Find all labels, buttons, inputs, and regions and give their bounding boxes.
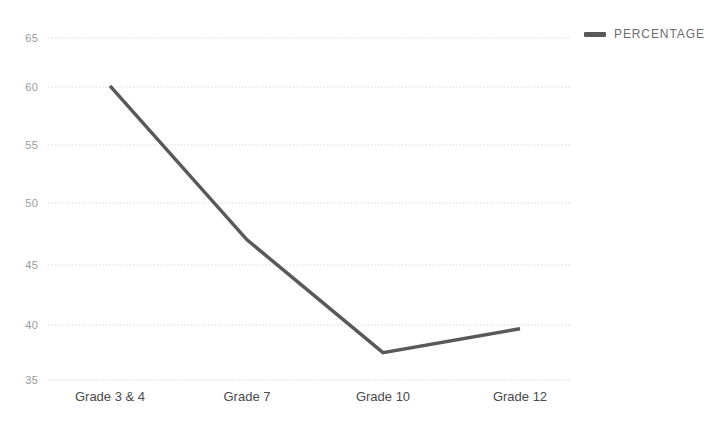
y-tick-label-40: 40 (8, 319, 38, 331)
legend-swatch-percentage (584, 32, 606, 37)
x-tick-label-grade-10: Grade 10 (313, 389, 453, 405)
series-line-percentage (110, 86, 520, 353)
line-chart: 65 60 55 50 45 40 35 Grade 3 & 4 Grade 7… (0, 0, 727, 425)
x-tick-label-grade-3-4: Grade 3 & 4 (40, 389, 180, 405)
chart-plot-area (0, 0, 727, 425)
y-tick-label-65: 65 (8, 32, 38, 44)
y-tick-label-50: 50 (8, 197, 38, 209)
legend-label-percentage: PERCENTAGE (614, 27, 705, 41)
chart-legend: PERCENTAGE (584, 27, 705, 41)
x-tick-label-grade-7: Grade 7 (177, 389, 317, 405)
y-tick-label-55: 55 (8, 139, 38, 151)
y-tick-label-45: 45 (8, 259, 38, 271)
y-tick-label-60: 60 (8, 81, 38, 93)
gridlines (48, 38, 570, 380)
y-tick-label-35: 35 (8, 374, 38, 386)
x-tick-label-grade-12: Grade 12 (450, 389, 590, 405)
